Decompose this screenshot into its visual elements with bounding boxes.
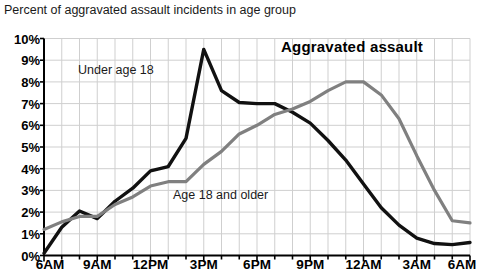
x-tick-label: 3PM	[190, 257, 218, 272]
series-label-18-and-older: Age 18 and older	[173, 188, 268, 202]
x-tick-label: 12AM	[345, 257, 381, 272]
x-tick-label: 12PM	[133, 257, 168, 272]
plot-area: 0%1%2%3%4%5%6%7%8%9%10% 6AM9AM12PM3PM6PM…	[0, 0, 478, 276]
chart-container: Percent of aggravated assault incidents …	[0, 0, 478, 276]
x-tick-label: 6AM	[448, 257, 477, 272]
chart-subtitle: Aggravated assault	[281, 38, 423, 55]
x-tick-label: 9AM	[83, 257, 112, 272]
x-tick-label: 6PM	[243, 257, 271, 272]
x-tick-label: 6AM	[36, 257, 65, 272]
x-tick-label: 3AM	[402, 257, 431, 272]
series-label-under-18: Under age 18	[78, 63, 154, 77]
x-tick-label: 9PM	[296, 257, 324, 272]
